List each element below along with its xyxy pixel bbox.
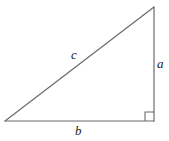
hypotenuse-line — [5, 7, 154, 121]
hypotenuse-label: c — [71, 48, 77, 61]
right-triangle-figure: c a b — [0, 0, 169, 141]
right-angle-marker-icon — [145, 112, 154, 121]
vertical-leg-label: a — [157, 57, 164, 70]
triangle-drawing — [0, 0, 169, 141]
horizontal-leg-label: b — [75, 124, 82, 137]
